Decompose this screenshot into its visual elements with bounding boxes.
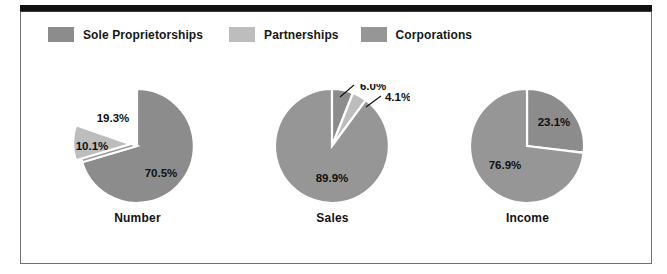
pie-sales-label-sole-proprietorships: 6.0% [360,84,386,92]
legend-swatch-corporations [361,27,387,42]
chart-legend: Sole Proprietorships Partnerships Corpor… [48,27,472,42]
legend-item-partnerships: Partnerships [229,27,339,42]
legend-label-partnerships: Partnerships [264,28,339,42]
pie-sales-caption: Sales [255,211,410,225]
pie-chart-figure: Sole Proprietorships Partnerships Corpor… [0,0,667,274]
legend-label-corporations: Corporations [396,28,473,42]
legend-swatch-partnerships [229,27,255,42]
legend-item-sole-proprietorships: Sole Proprietorships [48,27,203,42]
pie-sales-label-partnerships: 4.1% [385,91,410,103]
pie-number-caption: Number [60,211,215,225]
pie-income-label-corporations: 76.9% [489,159,522,171]
pie-chart-income: 23.1% 76.9% Income [450,84,605,225]
pie-sales-svg: 6.0% 4.1% 89.9% [255,84,410,209]
legend-swatch-sole-proprietorships [48,27,74,42]
pie-number-label-sole-proprietorships: 70.5% [145,167,178,179]
pie-income-label-sole-proprietorships: 23.1% [538,116,571,128]
pie-income-caption: Income [450,211,605,225]
pie-sales-slice-corporations [275,89,389,203]
legend-label-sole-proprietorships: Sole Proprietorships [83,28,203,42]
pie-number-label-partnerships: 10.1% [76,140,109,152]
pie-number-svg: 70.5% 10.1% 19.3% [60,84,215,209]
pie-chart-sales: 6.0% 4.1% 89.9% Sales [255,84,410,225]
pie-income-svg: 23.1% 76.9% [450,84,605,209]
pie-number-label-corporations: 19.3% [97,112,130,124]
pie-sales-label-corporations: 89.9% [316,172,349,184]
pie-chart-number: 70.5% 10.1% 19.3% Number [60,84,215,225]
legend-item-corporations: Corporations [361,27,473,42]
